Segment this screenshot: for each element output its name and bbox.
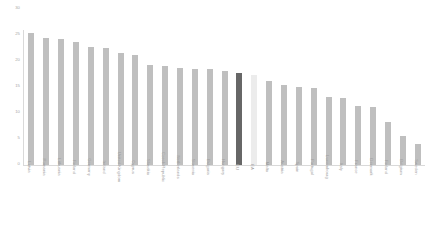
bar-slot: [232, 8, 247, 165]
x-label-slot: EU: [232, 166, 247, 228]
x-axis-labels: LatviaRomaniaLithuaniaFinlandGermanyIrel…: [24, 166, 425, 228]
bar-slot: [410, 8, 425, 165]
y-tick-label: 15: [15, 84, 20, 88]
bar[interactable]: [147, 65, 153, 165]
bar-slot: [395, 8, 410, 165]
bar-slot: [69, 8, 84, 165]
bar[interactable]: [73, 42, 79, 166]
bar-chart: 302520151050 LatviaRomaniaLithuaniaFinla…: [0, 0, 433, 230]
x-tick-label: France: [354, 160, 358, 173]
x-tick-label: United Kingdom: [116, 152, 120, 183]
bar-slot: [173, 8, 188, 165]
bar[interactable]: [222, 71, 228, 165]
bar-slot: [351, 8, 366, 165]
bar[interactable]: [207, 69, 213, 165]
bar[interactable]: [103, 48, 109, 165]
x-tick-label: Finland: [384, 160, 388, 174]
bar-slot: [336, 8, 351, 165]
x-tick-label: Germany: [87, 158, 91, 176]
bar[interactable]: [177, 68, 183, 165]
x-label-slot: Czech Republic: [158, 166, 173, 228]
bar[interactable]: [385, 122, 391, 165]
bar[interactable]: [355, 106, 361, 165]
bar[interactable]: [58, 39, 64, 165]
bar-slot: [202, 8, 217, 165]
x-label-slot: Bulgaria: [202, 166, 217, 228]
x-label-slot: Slovenia: [187, 166, 202, 228]
x-label-slot: Portugal: [306, 166, 321, 228]
x-tick-label: Spain: [295, 162, 299, 173]
bar[interactable]: [311, 88, 317, 165]
y-tick-label: 0: [18, 162, 20, 166]
x-tick-label: Sweden: [414, 159, 418, 174]
bar[interactable]: [132, 55, 138, 165]
x-tick-label: Czech Republic: [161, 152, 165, 182]
x-label-slot: Belgium: [395, 166, 410, 228]
bar-slot: [306, 8, 321, 165]
x-tick-label: Belgium: [399, 159, 403, 174]
x-tick-label: Ireland: [102, 160, 106, 173]
x-label-slot: Malta: [262, 166, 277, 228]
x-label-slot: Italy: [336, 166, 351, 228]
y-tick-label: 30: [15, 6, 20, 10]
bar-slot: [83, 8, 98, 165]
bar[interactable]: [192, 69, 198, 165]
bar[interactable]: [281, 85, 287, 165]
bar[interactable]: [88, 47, 94, 165]
bar-slot: [24, 8, 39, 165]
x-tick-label: Hungary: [220, 159, 224, 175]
x-label-slot: Germany: [83, 166, 98, 228]
bar-slot: [54, 8, 69, 165]
bar[interactable]: [370, 107, 376, 165]
x-tick-label: Italy: [339, 163, 343, 171]
x-tick-label: Denmark: [369, 158, 373, 175]
y-tick-label: 20: [15, 58, 20, 62]
bar[interactable]: [118, 53, 124, 165]
x-label-slot: Romania: [39, 166, 54, 228]
bar[interactable]: [340, 98, 346, 165]
bar-slot: [381, 8, 396, 165]
x-label-slot: Latvia: [24, 166, 39, 228]
x-label-slot: Hungary: [217, 166, 232, 228]
bar-slot: [187, 8, 202, 165]
x-label-slot: Lithuania: [54, 166, 69, 228]
x-label-slot: EA: [247, 166, 262, 228]
y-axis: 302520151050: [0, 0, 24, 230]
bar-slot: [217, 8, 232, 165]
x-label-slot: France: [351, 166, 366, 228]
bar[interactable]: [236, 73, 242, 165]
x-label-slot: Denmark: [366, 166, 381, 228]
x-tick-label: Portugal: [310, 159, 314, 175]
x-label-slot: Finland: [69, 166, 84, 228]
x-label-slot: Ireland: [98, 166, 113, 228]
bar[interactable]: [251, 75, 257, 165]
bar-slot: [158, 8, 173, 165]
bar[interactable]: [296, 87, 302, 166]
x-tick-label: EU: [235, 164, 239, 170]
bar[interactable]: [162, 66, 168, 165]
y-tick-label: 10: [15, 110, 20, 114]
x-label-slot: Slovakia: [143, 166, 158, 228]
bar-slot: [262, 8, 277, 165]
x-label-slot: Spain: [291, 166, 306, 228]
bar[interactable]: [266, 81, 272, 165]
x-label-slot: Luxembourg: [321, 166, 336, 228]
y-tick-label: 5: [18, 136, 20, 140]
bar-slot: [291, 8, 306, 165]
bar-slot: [321, 8, 336, 165]
x-label-slot: Netherlands: [173, 166, 188, 228]
x-tick-label: Slovakia: [146, 159, 150, 175]
x-tick-label: Cyprus: [131, 160, 135, 174]
x-tick-label: EA: [250, 164, 254, 170]
bar-slot: [98, 8, 113, 165]
bar-slot: [247, 8, 262, 165]
bar[interactable]: [43, 38, 49, 165]
x-label-slot: Sweden: [410, 166, 425, 228]
x-label-slot: Austria: [277, 166, 292, 228]
x-tick-label: Malta: [265, 162, 269, 173]
bar[interactable]: [28, 33, 34, 165]
bar-slot: [39, 8, 54, 165]
bar-slot: [113, 8, 128, 165]
bar-slot: [128, 8, 143, 165]
x-tick-label: Lithuania: [57, 158, 61, 175]
